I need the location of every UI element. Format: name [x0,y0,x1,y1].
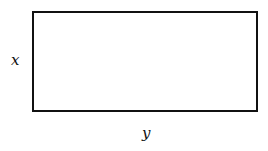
side-label-y: y [142,126,150,141]
side-label-x: x [11,53,19,68]
rectangle-shape [32,11,258,112]
